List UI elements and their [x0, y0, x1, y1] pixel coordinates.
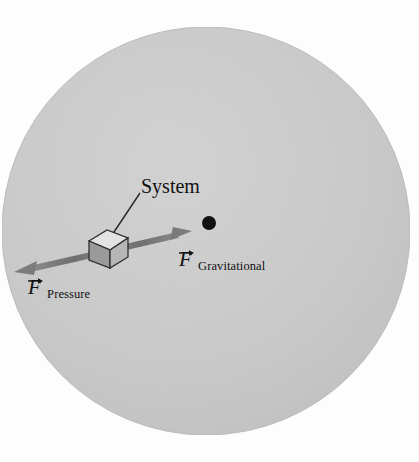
force-label-gravitational: F Gravitational — [179, 249, 265, 270]
physics-figure: System F Gravitational F Pressure — [0, 0, 419, 462]
earth-center-dot — [202, 216, 216, 230]
force-label-pressure: F Pressure — [28, 277, 90, 298]
force-symbol-gravitational: F — [179, 247, 198, 271]
figure-canvas — [0, 0, 419, 462]
force-symbol-letter-pressure: F — [28, 275, 41, 299]
force-symbol-letter-gravitational: F — [179, 247, 192, 271]
force-symbol-pressure: F — [28, 275, 47, 299]
earth-disk — [2, 27, 410, 435]
system-label: System — [141, 176, 200, 196]
force-subscript-gravitational: Gravitational — [198, 259, 265, 273]
force-subscript-pressure: Pressure — [47, 287, 90, 301]
